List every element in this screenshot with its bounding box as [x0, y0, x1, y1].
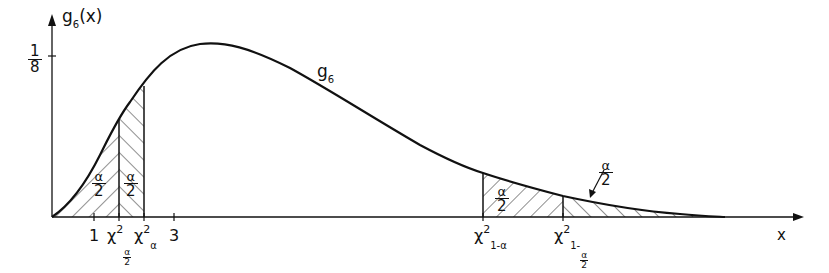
chi-exponent: 2	[116, 223, 123, 236]
curve-label: g6	[317, 63, 334, 83]
chi-subscript: α	[150, 240, 157, 251]
x-tick-label-chi-alpha: χ2α	[134, 226, 157, 248]
chi-symbol: χ	[107, 226, 116, 245]
density-curve	[52, 43, 725, 217]
sub-frac: α2	[580, 251, 588, 270]
area-den: 2	[124, 183, 138, 199]
chi-symbol: χ	[134, 226, 143, 245]
y-axis-label-g: g	[62, 6, 73, 26]
area-label-left-1: α 2	[92, 170, 106, 199]
chi-exponent: 2	[143, 223, 150, 236]
area-label-left-2: α 2	[124, 170, 138, 199]
chi-symbol: χ	[554, 226, 563, 245]
shaded-regions	[52, 0, 733, 217]
sub-den: 2	[124, 258, 130, 267]
area-label-right-1: α 2	[495, 185, 509, 214]
curve-label-sub: 6	[328, 74, 334, 85]
chi-exponent: 2	[563, 223, 570, 236]
y-axis-label-arg: (x)	[79, 6, 102, 26]
x-tick-label-3: 3	[169, 228, 179, 244]
x-axis-arrow-icon	[793, 213, 804, 221]
area-den: 2	[495, 198, 509, 214]
y-tick-den: 8	[28, 59, 42, 75]
pointer-arrow-icon	[589, 189, 596, 198]
y-axis-label-sub: 6	[73, 19, 79, 30]
x-tick-label-chi-one-minus-alpha-half: χ21-α2	[554, 226, 588, 270]
x-axis-label: x	[777, 228, 786, 243]
area-den: 2	[92, 183, 106, 199]
x-tick-label-1: 1	[89, 228, 99, 244]
y-tick-num: 1	[29, 44, 41, 59]
y-axis-arrow-icon	[48, 14, 56, 26]
sub-den: 2	[581, 261, 587, 270]
area-den: 2	[599, 172, 613, 188]
right-tail-region-2	[563, 0, 733, 217]
area-label-right-2: α 2	[599, 159, 613, 188]
x-tick-label-chi-one-minus-alpha: χ21-α	[474, 226, 507, 248]
chi-symbol: χ	[474, 226, 483, 245]
x-tick-label-chi-alpha-half: χ2α2	[107, 226, 131, 267]
chi-exponent: 2	[483, 223, 490, 236]
curve-label-g: g	[317, 61, 328, 81]
chi-subscript: 1-α	[490, 240, 507, 251]
y-tick-label-eighth: 1 8	[28, 44, 42, 75]
y-axis-label: g6(x)	[62, 8, 103, 28]
sub-frac: α2	[123, 248, 131, 267]
left-tail-region-1	[52, 0, 119, 217]
chi-subscript: 1-	[570, 240, 580, 251]
